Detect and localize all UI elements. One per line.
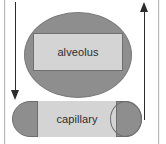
- frame-rule-right: [158, 0, 160, 144]
- capillary-label-box: capillary: [37, 101, 117, 137]
- outflow-arrowhead-icon: [140, 2, 148, 12]
- frame-rule-left: [4, 0, 6, 144]
- inflow-arrow-shaft: [15, 2, 16, 92]
- capillary-end-cap: [110, 101, 142, 137]
- capillary-label: capillary: [56, 114, 97, 125]
- alveolus-label-box: alveolus: [33, 33, 123, 71]
- outflow-arrow-shaft: [144, 12, 145, 120]
- capillary-shape: capillary: [12, 101, 142, 137]
- inflow-arrowhead-icon: [11, 90, 19, 100]
- alveolus-label: alveolus: [57, 47, 98, 58]
- diagram-canvas: alveolus capillary: [0, 0, 166, 144]
